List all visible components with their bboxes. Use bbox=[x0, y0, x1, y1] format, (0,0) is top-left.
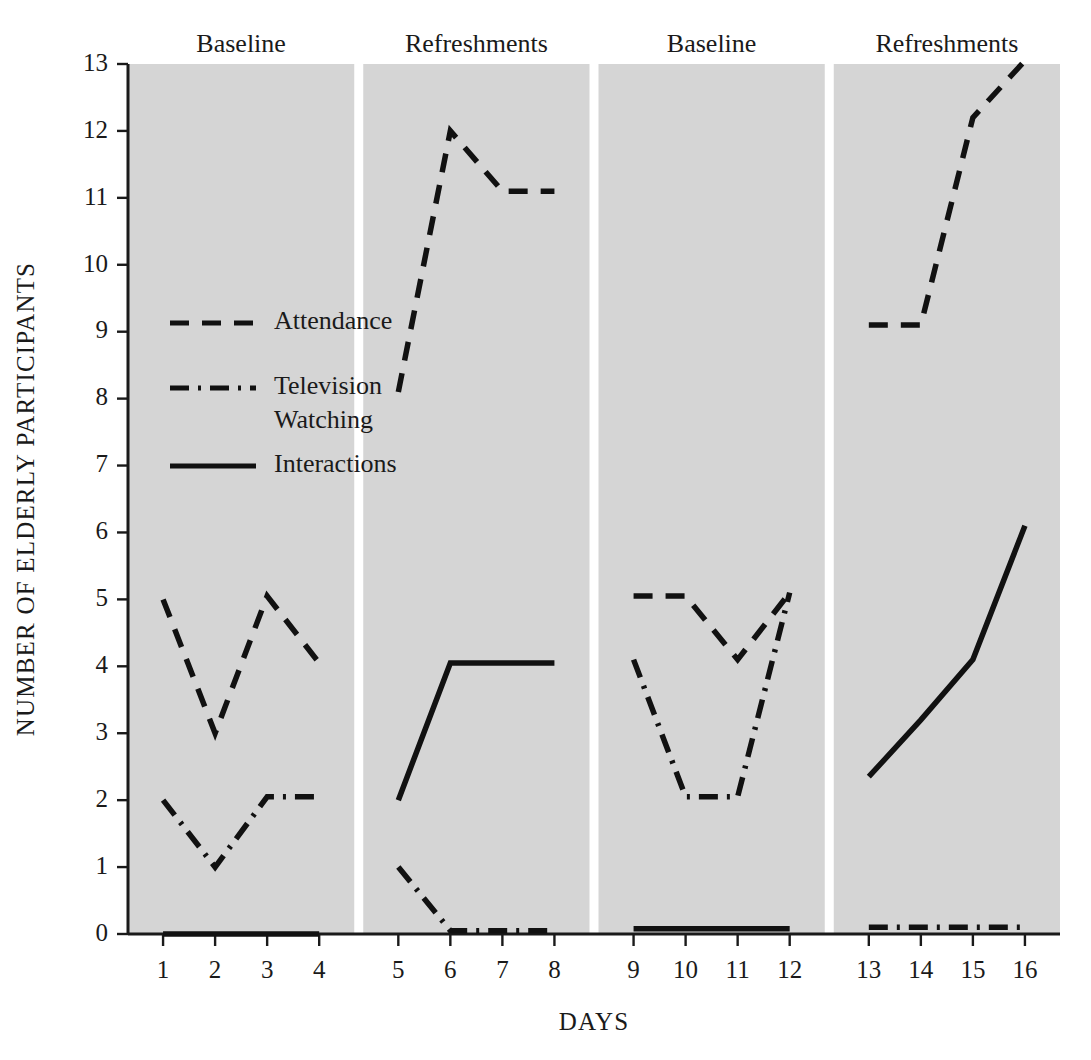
panel-title-3: Baseline bbox=[667, 29, 757, 58]
panel-background-3 bbox=[599, 64, 825, 934]
y-tick-label-3: 3 bbox=[96, 718, 109, 745]
chart-canvas: BaselineRefreshmentsBaselineRefreshments… bbox=[0, 0, 1091, 1060]
y-tick-label-4: 4 bbox=[96, 651, 109, 678]
x-tick-label-1: 1 bbox=[157, 956, 170, 983]
x-tick-label-3: 3 bbox=[261, 956, 274, 983]
y-tick-label-11: 11 bbox=[84, 183, 108, 210]
chart-figure: BaselineRefreshmentsBaselineRefreshments… bbox=[0, 0, 1091, 1060]
y-tick-label-8: 8 bbox=[96, 383, 109, 410]
y-tick-label-9: 9 bbox=[96, 316, 109, 343]
x-tick-label-9: 9 bbox=[627, 956, 640, 983]
x-axis: 12345678910111213141516 bbox=[128, 934, 1060, 983]
legend-label-attendance: Attendance bbox=[274, 306, 392, 335]
x-tick-label-14: 14 bbox=[908, 956, 934, 983]
y-tick-label-1: 1 bbox=[96, 852, 109, 879]
panel-background-4 bbox=[834, 64, 1060, 934]
y-tick-label-6: 6 bbox=[96, 517, 109, 544]
panel-titles: BaselineRefreshmentsBaselineRefreshments bbox=[196, 29, 1018, 58]
y-tick-label-13: 13 bbox=[83, 49, 108, 76]
x-axis-title: DAYS bbox=[559, 1008, 630, 1035]
panel-backgrounds bbox=[128, 64, 1060, 934]
y-tick-label-12: 12 bbox=[83, 116, 108, 143]
x-tick-label-12: 12 bbox=[777, 956, 802, 983]
x-tick-label-7: 7 bbox=[496, 956, 509, 983]
y-tick-label-5: 5 bbox=[96, 584, 109, 611]
x-tick-label-6: 6 bbox=[444, 956, 457, 983]
panel-background-1 bbox=[128, 64, 354, 934]
x-tick-label-8: 8 bbox=[548, 956, 561, 983]
x-tick-label-11: 11 bbox=[726, 956, 750, 983]
y-tick-label-0: 0 bbox=[96, 919, 109, 946]
x-tick-label-15: 15 bbox=[960, 956, 985, 983]
y-axis: 012345678910111213 bbox=[83, 49, 128, 946]
panel-title-2: Refreshments bbox=[405, 29, 548, 58]
y-tick-label-10: 10 bbox=[83, 250, 108, 277]
y-tick-label-7: 7 bbox=[96, 450, 109, 477]
y-axis-title: NUMBER OF ELDERLY PARTICIPANTS bbox=[12, 262, 39, 736]
panel-title-4: Refreshments bbox=[875, 29, 1018, 58]
legend-label-interactions: Interactions bbox=[274, 449, 397, 478]
panel-title-1: Baseline bbox=[196, 29, 286, 58]
x-tick-label-10: 10 bbox=[673, 956, 698, 983]
y-tick-label-2: 2 bbox=[96, 785, 109, 812]
x-tick-label-13: 13 bbox=[856, 956, 881, 983]
panel-background-2 bbox=[363, 64, 589, 934]
x-tick-label-5: 5 bbox=[392, 956, 405, 983]
x-tick-label-2: 2 bbox=[209, 956, 222, 983]
x-tick-label-4: 4 bbox=[313, 956, 326, 983]
x-tick-label-16: 16 bbox=[1012, 956, 1037, 983]
